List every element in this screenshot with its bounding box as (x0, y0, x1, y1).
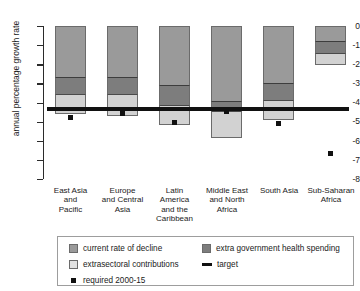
bar-segment-extra-government-health-spending (159, 85, 190, 105)
category-label-east-asia-and-pacific: East Asia and Pacific (44, 186, 97, 214)
category-label-europe-and-central-asia: Europe and Central Asia (94, 186, 151, 214)
bar-segment-extra-government-health-spending (107, 77, 138, 94)
bar-south-asia (263, 26, 294, 120)
category-label-line: and North (199, 195, 255, 204)
category-label-line: and Central (94, 195, 151, 204)
legend-swatch-required-marker-icon (71, 278, 76, 283)
category-label-line: Middle East (199, 186, 255, 195)
bar-segment-current-rate-of-decline (315, 26, 346, 41)
bar-segment-extrasectoral-contributions (315, 53, 346, 65)
category-label-line: Asia (94, 205, 151, 214)
legend-label: required 2000-15 (83, 276, 145, 285)
legend-label: current rate of decline (83, 244, 162, 253)
y-tick-3 (37, 83, 43, 84)
legend-label: target (217, 260, 238, 269)
bar-segment-extrasectoral-contributions (211, 111, 242, 138)
category-label-line: Europe (94, 186, 151, 195)
y-axis-line (43, 26, 44, 179)
y-tick-label-3: -3 (330, 79, 360, 88)
required-marker-middle-east-and-north-africa (224, 109, 229, 114)
legend-item-required-2000-15: required 2000-15 (69, 276, 145, 285)
bar-segment-current-rate-of-decline (55, 26, 86, 77)
legend-swatch-target-line-icon (202, 263, 212, 267)
bar-segment-current-rate-of-decline (159, 26, 190, 85)
bar-middle-east-and-north-africa (211, 26, 242, 138)
category-label-line: Africa (199, 205, 255, 214)
bar-segment-current-rate-of-decline (263, 26, 294, 83)
y-tick-7 (37, 160, 43, 161)
required-marker-east-asia-and-pacific (68, 115, 73, 120)
required-marker-latin-america-and-the-caribbean (172, 120, 177, 125)
bar-sub-saharan-africa (315, 26, 346, 65)
required-marker-europe-and-central-asia (120, 111, 125, 116)
legend-item-current-rate-of-decline: current rate of decline (69, 244, 162, 253)
y-tick-2 (37, 64, 43, 65)
category-label-line: East Asia (44, 186, 97, 195)
category-label-line: America (147, 195, 202, 204)
category-label-middle-east-and-north-africa: Middle East and North Africa (199, 186, 255, 214)
category-label-line: Caribbean (147, 214, 202, 223)
y-axis-title: annual percentage growth rate (12, 9, 21, 149)
y-tick-1 (37, 45, 43, 46)
legend-item-target: target (202, 260, 238, 269)
legend-label: extra government health spending (216, 244, 340, 253)
bar-segment-extra-government-health-spending (315, 41, 346, 53)
bar-segment-current-rate-of-decline (107, 26, 138, 77)
legend-swatch-current-rate-of-decline-icon (69, 244, 78, 253)
y-tick-6 (37, 141, 43, 142)
chart-figure: annual percentage growth rate 0 -1 -2 -3… (0, 0, 360, 291)
required-marker-sub-saharan-africa (328, 151, 333, 156)
required-marker-south-asia (276, 121, 281, 126)
legend-item-extra-government-health-spending: extra government health spending (202, 244, 340, 253)
y-tick-label-7: -7 (330, 156, 360, 165)
category-label-south-asia: South Asia (252, 186, 306, 195)
y-tick-label-6: -6 (330, 137, 360, 146)
legend-swatch-extra-government-health-spending-icon (202, 244, 211, 253)
y-tick-5 (37, 122, 43, 123)
y-tick-8 (37, 179, 43, 180)
category-label-line: and (44, 195, 97, 204)
category-label-sub-saharan-africa: Sub-Saharan Africa (302, 186, 360, 205)
legend-swatch-extrasectoral-contributions-icon (69, 260, 78, 269)
category-label-line: Latin (147, 186, 202, 195)
category-label-line: South Asia (252, 186, 306, 195)
category-label-line: Pacific (44, 205, 97, 214)
category-label-line: Sub-Saharan (302, 186, 360, 195)
legend-item-extrasectoral-contributions: extrasectoral contributions (69, 260, 179, 269)
y-tick-0 (37, 26, 43, 27)
bar-segment-current-rate-of-decline (211, 26, 242, 101)
y-tick-label-5: -5 (330, 117, 360, 126)
legend-label: extrasectoral contributions (83, 260, 179, 269)
target-line (47, 107, 349, 111)
category-label-latin-america-and-the-caribbean: Latin America and the Caribbean (147, 186, 202, 224)
bar-segment-extra-government-health-spending (55, 77, 86, 94)
bar-segment-extra-government-health-spending (263, 83, 294, 99)
bar-europe-and-central-asia (107, 26, 138, 116)
chart-legend: current rate of decline extra government… (57, 236, 354, 286)
bar-east-asia-and-pacific (55, 26, 86, 114)
y-tick-label-4: -4 (330, 98, 360, 107)
category-label-line: and the (147, 205, 202, 214)
plot-area: annual percentage growth rate 0 -1 -2 -3… (0, 0, 360, 185)
y-tick-4 (37, 103, 43, 104)
category-label-line: Africa (302, 195, 360, 204)
y-tick-label-8: -8 (330, 175, 360, 184)
